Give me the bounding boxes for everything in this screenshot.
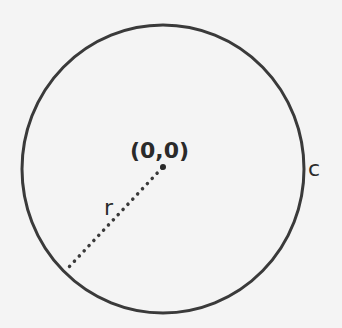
radius-label: r <box>104 197 113 219</box>
center-point <box>160 164 166 170</box>
center-label: (0,0) <box>130 140 189 162</box>
circumference-label: c <box>308 158 320 180</box>
circle-diagram <box>0 0 342 328</box>
radius-line <box>68 168 162 268</box>
